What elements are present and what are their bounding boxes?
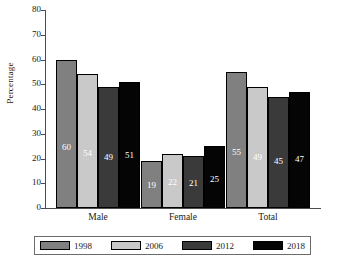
y-tick-label: 60 <box>32 54 41 65</box>
bar[interactable]: 49 <box>247 87 268 208</box>
bar-chart: Percentage 01020304050607080 60544951Mal… <box>0 0 341 265</box>
bar-group: 60544951Male <box>56 10 140 208</box>
legend-item[interactable]: 2006 <box>111 241 163 251</box>
legend-swatch <box>40 241 70 250</box>
x-tick-label: Female <box>141 212 225 222</box>
y-tick-label: 10 <box>32 177 41 188</box>
y-tick-label: 20 <box>32 153 41 164</box>
y-tick-mark <box>41 208 46 209</box>
bar-groups: 60544951Male19222125Female55494547Total <box>45 10 321 208</box>
bar-value-label: 22 <box>163 177 182 187</box>
bar-value-label: 47 <box>290 154 309 164</box>
y-tick-label: 50 <box>32 78 41 89</box>
y-tick-label: 40 <box>32 103 41 114</box>
bar[interactable]: 47 <box>289 92 310 208</box>
bar[interactable]: 22 <box>162 154 183 208</box>
y-axis-label: Percentage <box>5 38 15 128</box>
x-axis-line <box>45 208 321 209</box>
bar[interactable]: 54 <box>77 74 98 208</box>
y-tick-label: 30 <box>32 128 41 139</box>
plot-area: 01020304050607080 60544951Male19222125Fe… <box>45 10 321 209</box>
bar[interactable]: 49 <box>98 87 119 208</box>
bar[interactable]: 55 <box>226 72 247 208</box>
legend-item[interactable]: 2018 <box>253 241 305 251</box>
y-tick-label: 0 <box>37 202 42 213</box>
bar-value-label: 51 <box>120 150 139 160</box>
bar-value-label: 55 <box>227 147 246 157</box>
bar-value-label: 60 <box>57 142 76 152</box>
y-tick-label: 70 <box>32 29 41 40</box>
bar[interactable]: 51 <box>119 82 140 208</box>
bar-group: 19222125Female <box>141 10 225 208</box>
bar-value-label: 49 <box>99 152 118 162</box>
bar[interactable]: 25 <box>204 146 225 208</box>
legend-item[interactable]: 1998 <box>40 241 92 251</box>
legend-label: 2018 <box>287 241 305 251</box>
legend-label: 1998 <box>74 241 92 251</box>
bar-group: 55494547Total <box>226 10 310 208</box>
y-tick: 0 <box>45 208 50 209</box>
legend-item[interactable]: 2012 <box>182 241 234 251</box>
legend-label: 2006 <box>145 241 163 251</box>
bar[interactable]: 45 <box>268 97 289 208</box>
bar[interactable]: 60 <box>56 60 77 209</box>
bar-value-label: 49 <box>248 152 267 162</box>
legend-label: 2012 <box>216 241 234 251</box>
bar[interactable]: 21 <box>183 156 204 208</box>
x-tick-label: Total <box>226 212 310 222</box>
bar-value-label: 45 <box>269 156 288 166</box>
bar[interactable]: 19 <box>141 161 162 208</box>
legend-swatch <box>253 241 283 250</box>
chart-legend: 1998200620122018 <box>34 236 311 255</box>
bar-value-label: 25 <box>205 174 224 184</box>
bar-value-label: 19 <box>142 180 161 190</box>
legend-swatch <box>111 241 141 250</box>
bar-value-label: 54 <box>78 148 97 158</box>
legend-swatch <box>182 241 212 250</box>
x-tick-label: Male <box>56 212 140 222</box>
y-tick-label: 80 <box>32 4 41 15</box>
bar-value-label: 21 <box>184 178 203 188</box>
